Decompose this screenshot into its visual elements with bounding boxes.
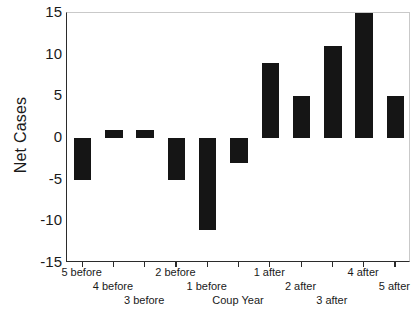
bar: [74, 138, 92, 180]
x-tick-label: 4 after: [347, 266, 378, 278]
bar: [136, 130, 154, 138]
bar: [105, 130, 123, 138]
x-tick-label: 3 before: [124, 294, 164, 306]
x-tick-label: 3 after: [316, 294, 347, 306]
bar: [324, 46, 342, 138]
x-tick-label: 2 after: [285, 280, 316, 292]
y-tick-label: 10: [20, 46, 62, 61]
y-tick-label: 0: [20, 129, 62, 144]
bar-chart-figure: Net Cases 151050-5-10-15 5 before4 befor…: [0, 0, 417, 314]
x-tick-label: 1 after: [254, 266, 285, 278]
bar: [262, 63, 280, 138]
bar-series: [67, 13, 409, 261]
x-tick-label: 2 before: [155, 266, 195, 278]
bar: [387, 96, 405, 138]
y-tick-label: -5: [20, 171, 62, 186]
x-tick-label: 5 before: [61, 266, 101, 278]
bar: [168, 138, 186, 180]
bar: [293, 96, 311, 138]
y-tick-label: 5: [20, 87, 62, 102]
bar: [355, 13, 373, 138]
plot-area: [66, 12, 410, 262]
y-tick-label: 15: [20, 4, 62, 19]
x-tick-label: 5 after: [379, 280, 410, 292]
bar: [230, 138, 248, 163]
y-axis-tick-labels: 151050-5-10-15: [20, 12, 62, 262]
x-tick-label: Coup Year: [212, 294, 263, 306]
x-tick-label: 1 before: [187, 280, 227, 292]
y-tick-label: -10: [20, 212, 62, 227]
bar: [199, 138, 217, 230]
x-axis-tick-labels: 5 before4 before3 before2 before1 before…: [0, 266, 417, 314]
x-tick-label: 4 before: [93, 280, 133, 292]
